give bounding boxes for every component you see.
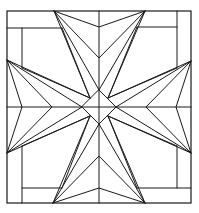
maltese-cross-drawing [0,0,199,213]
diagram-canvas: Maltese cross quilt block pattern [0,0,199,213]
center-axes [7,11,191,203]
